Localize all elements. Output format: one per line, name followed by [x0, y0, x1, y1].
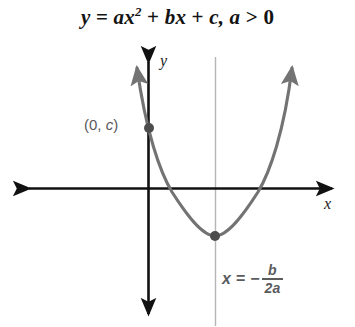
x-axis-label: x [324, 195, 331, 213]
fraction-numerator: b [265, 263, 280, 278]
figure-container: y = ax2 + bx + c, a > 0 [0, 0, 355, 327]
y-axis-label: y [160, 52, 167, 70]
vertex-point [210, 231, 220, 241]
parabola-right-branch [215, 68, 292, 236]
vertex-formula-var: x [222, 270, 231, 288]
parabola-plot [0, 0, 355, 327]
y-intercept-close: ) [113, 116, 118, 133]
vertex-formula-equals: = [236, 270, 245, 288]
fraction-denominator: 2a [262, 280, 284, 295]
vertex-formula-fraction: b 2a [262, 263, 284, 295]
vertex-formula-label: x = − b 2a [222, 263, 283, 295]
vertex-formula-minus: − [250, 270, 259, 288]
y-intercept-point [144, 123, 154, 133]
y-intercept-open: (0, [84, 116, 106, 133]
y-intercept-label: (0, c) [84, 116, 118, 133]
